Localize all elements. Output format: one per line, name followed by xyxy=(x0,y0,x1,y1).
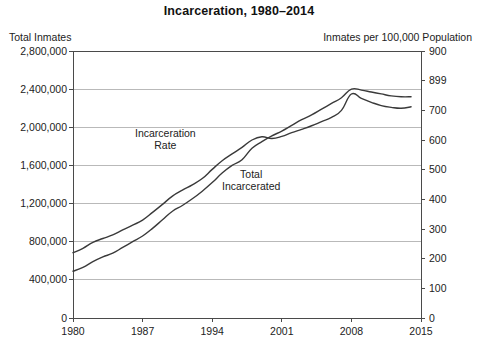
series-label-total-incarcerated: Total Incarcerated xyxy=(222,168,280,193)
series-label-line2: Rate xyxy=(154,139,176,151)
left-axis-tick-label: 800,000 xyxy=(1,236,67,247)
left-axis-tick-label: 2,400,000 xyxy=(1,84,67,95)
left-axis-tick-label: 0 xyxy=(1,313,67,324)
x-axis-tick-label: 2008 xyxy=(323,326,379,337)
x-axis-tick-label: 2001 xyxy=(254,326,310,337)
left-axis-tick-label: 2,800,000 xyxy=(1,46,67,57)
x-axis-tick-label: 1994 xyxy=(184,326,240,337)
series-label-line1: Incarceration xyxy=(135,127,196,139)
left-axis-tick-label: 1,600,000 xyxy=(1,160,67,171)
left-axis-tick-label: 1,200,000 xyxy=(1,198,67,209)
x-axis-tick-label: 1980 xyxy=(45,326,101,337)
right-axis-tick-label: 900 xyxy=(429,46,475,57)
incarceration-chart-figure: Incarceration, 1980–2014 Total Inmates I… xyxy=(0,0,478,353)
series-label-line2: Incarcerated xyxy=(222,180,280,192)
series-label-line1: Total xyxy=(240,168,262,180)
right-axis-tick-label: 500 xyxy=(429,164,475,175)
left-axis-tick-label: 2,000,000 xyxy=(1,122,67,133)
right-axis-tick-label: 400 xyxy=(429,194,475,205)
right-axis-tick-label: 300 xyxy=(429,224,475,235)
series-label-incarceration-rate: Incarceration Rate xyxy=(135,127,196,152)
x-axis-tick-label: 1987 xyxy=(115,326,171,337)
right-axis-tick-label: 600 xyxy=(429,135,475,146)
right-axis-tick-label: 0 xyxy=(429,313,475,324)
right-axis-tick-label: 899 xyxy=(429,75,475,86)
right-axis-tick-label: 700 xyxy=(429,105,475,116)
right-axis-tick-label: 100 xyxy=(429,283,475,294)
x-axis-tick-label: 2015 xyxy=(393,326,449,337)
left-axis-tick-label: 400,000 xyxy=(1,274,67,285)
right-axis-tick-label: 200 xyxy=(429,253,475,264)
